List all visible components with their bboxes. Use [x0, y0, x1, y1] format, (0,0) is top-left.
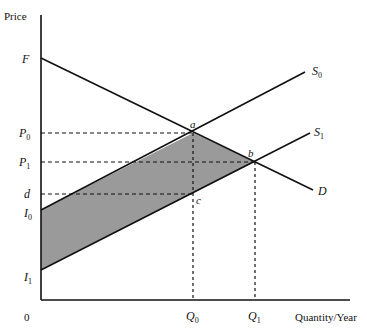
y-axis-label: Price	[4, 10, 27, 22]
y-tick-i1: I1	[23, 270, 32, 286]
x-tick-q1: Q1	[248, 309, 261, 325]
x-axis-label: Quantity/Year	[295, 311, 357, 323]
s1-label: S1	[314, 125, 324, 141]
x-tick-q0: Q0	[186, 309, 199, 325]
s0-label: S0	[312, 64, 322, 80]
supply-demand-diagram: Price Quantity/Year 0 F P0 P1 d I0 I1 Q0…	[0, 0, 367, 330]
y-tick-p0: P0	[18, 126, 30, 142]
d-label: D	[317, 184, 327, 198]
origin-label: 0	[24, 311, 30, 323]
point-c-label: c	[196, 194, 201, 206]
y-tick-f: F	[21, 52, 30, 66]
point-a-label: a	[190, 118, 196, 130]
y-tick-p1: P1	[18, 155, 30, 171]
y-tick-d: d	[24, 187, 31, 201]
y-tick-i0: I0	[23, 206, 32, 222]
point-b-label: b	[248, 147, 254, 159]
